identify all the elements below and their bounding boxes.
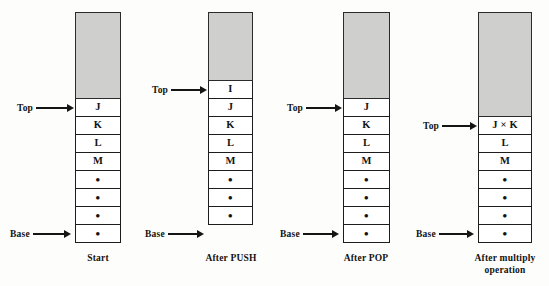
free-space-after-pop	[343, 12, 390, 99]
stack-cell: M	[478, 153, 532, 171]
stack-cell: L	[478, 135, 532, 153]
arrow-icon	[439, 229, 475, 239]
stack-cell: K	[208, 117, 253, 135]
stack-cell: •	[343, 225, 390, 243]
cell-stack-after-pop: J K L M • • • •	[343, 99, 390, 243]
top-pointer-after-pop: Top	[287, 102, 342, 114]
stack-cell: J	[75, 99, 121, 117]
stack-cell: •	[343, 189, 390, 207]
stack-cell: •	[75, 207, 121, 225]
stack-cell: •	[208, 171, 253, 189]
stack-cell: M	[75, 153, 121, 171]
stack-cell: •	[478, 225, 532, 243]
top-pointer-after-push: Top	[152, 84, 207, 96]
stack-cell: •	[478, 189, 532, 207]
stack-cell: •	[343, 207, 390, 225]
stack-diagram-canvas: J K L M • • • • Top Base Start	[0, 0, 549, 286]
stack-cell: K	[343, 117, 390, 135]
stack-cell: M	[208, 153, 253, 171]
stack-cell: M	[343, 153, 390, 171]
caption-line: After PUSH	[190, 253, 272, 265]
stack-cell: J	[208, 99, 253, 117]
top-pointer-start: Top	[17, 102, 74, 114]
cell-stack-after-multiply: J × K L M • • • •	[478, 117, 532, 243]
stack-cell: •	[75, 225, 121, 243]
arrow-icon	[442, 121, 477, 131]
arrow-icon	[171, 85, 207, 95]
caption-line: After multiply	[455, 253, 549, 265]
stack-cell: J × K	[478, 117, 532, 135]
arrow-icon	[33, 229, 72, 239]
stack-column-start: J K L M • • • •	[75, 12, 121, 243]
stack-cell: J	[343, 99, 390, 117]
cell-stack-start: J K L M • • • •	[75, 99, 121, 243]
caption-line: operation	[455, 265, 549, 277]
stack-cell: •	[208, 189, 253, 207]
base-pointer-after-push: Base	[145, 228, 204, 240]
stack-cell: •	[478, 171, 532, 189]
arrow-icon	[303, 229, 340, 239]
stack-cell: L	[208, 135, 253, 153]
stack-cell: L	[343, 135, 390, 153]
top-pointer-after-multiply: Top	[423, 120, 477, 132]
stack-cell: K	[75, 117, 121, 135]
top-pointer-label: Top	[152, 85, 168, 95]
top-pointer-label: Top	[287, 103, 303, 113]
stack-column-after-push: I J K L M • • •	[208, 12, 253, 225]
stack-caption-after-push: After PUSH	[190, 253, 272, 265]
base-pointer-after-multiply: Base	[416, 228, 474, 240]
caption-line: After POP	[326, 253, 406, 265]
base-pointer-label: Base	[280, 229, 300, 239]
base-pointer-label: Base	[10, 229, 30, 239]
stack-caption-after-pop: After POP	[326, 253, 406, 265]
free-space-start	[75, 12, 121, 99]
stack-cell: •	[208, 207, 253, 225]
arrow-icon	[168, 229, 205, 239]
stack-caption-start: Start	[58, 253, 138, 265]
stack-cell: •	[478, 207, 532, 225]
base-pointer-label: Base	[145, 229, 165, 239]
caption-line: Start	[58, 253, 138, 265]
free-space-after-multiply	[478, 12, 532, 117]
stack-cell: I	[208, 81, 253, 99]
arrow-icon	[306, 103, 342, 113]
stack-column-after-pop: J K L M • • • •	[343, 12, 390, 243]
stack-cell: •	[75, 189, 121, 207]
top-pointer-label: Top	[423, 121, 439, 131]
base-pointer-start: Base	[10, 228, 71, 240]
free-space-after-push	[208, 12, 253, 81]
base-pointer-after-pop: Base	[280, 228, 339, 240]
stack-cell: L	[75, 135, 121, 153]
top-pointer-label: Top	[17, 103, 33, 113]
stack-caption-after-multiply: After multiply operation	[455, 253, 549, 276]
cell-stack-after-push: I J K L M • • •	[208, 81, 253, 225]
stack-cell: •	[75, 171, 121, 189]
base-pointer-label: Base	[416, 229, 436, 239]
arrow-icon	[36, 103, 74, 113]
stack-column-after-multiply: J × K L M • • • •	[478, 12, 532, 243]
stack-cell: •	[343, 171, 390, 189]
